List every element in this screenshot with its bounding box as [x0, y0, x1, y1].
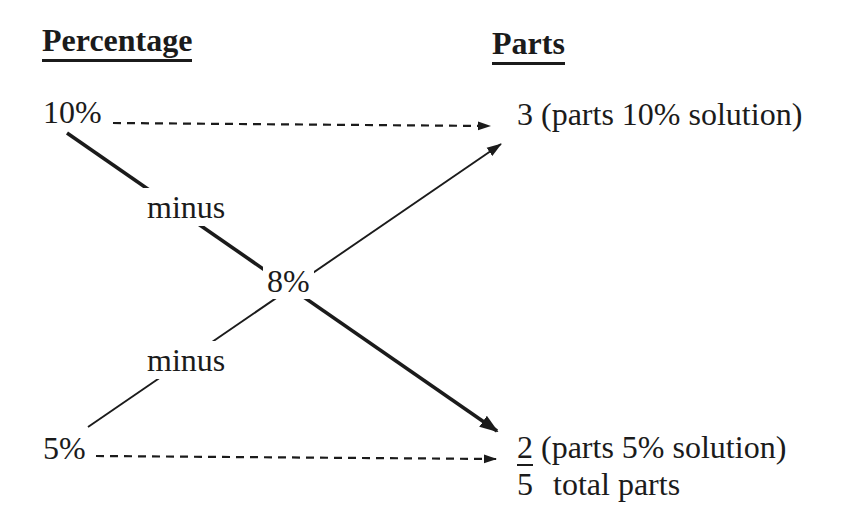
total-parts-value: 5	[517, 466, 533, 502]
column-header-parts: Parts	[492, 27, 565, 65]
result-bottom-description: (parts 5% solution)	[541, 429, 786, 465]
result-bottom-parts: 2(parts 5% solution)	[517, 431, 786, 466]
node-center-percentage: 8%	[263, 263, 314, 299]
operation-label-lower-minus: minus	[142, 341, 230, 379]
node-bottom-percentage: 5%	[43, 432, 86, 464]
result-total-parts: 5total parts	[517, 468, 680, 500]
result-top-parts: 3 (parts 10% solution)	[517, 98, 802, 130]
column-header-percentage: Percentage	[42, 24, 192, 62]
dashed-arrow-icon-top	[113, 123, 490, 126]
total-parts-label: total parts	[553, 466, 680, 502]
alligation-diagram: Percentage Parts 10% 5% 8% minus minus 3…	[0, 0, 841, 524]
operation-label-upper-minus: minus	[142, 188, 230, 226]
result-bottom-numerator: 2	[517, 431, 533, 466]
dashed-arrow-icon-bottom	[96, 456, 496, 459]
node-top-percentage: 10%	[43, 96, 102, 128]
